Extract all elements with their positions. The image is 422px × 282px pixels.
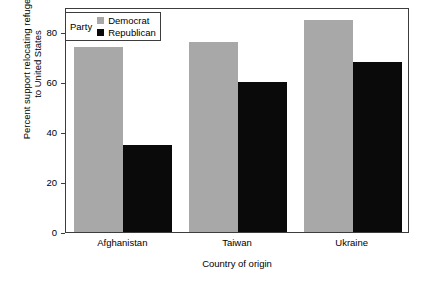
x-axis-tick-label-taiwan: Taiwan xyxy=(222,237,252,249)
bar-ukraine-republican xyxy=(353,62,402,232)
legend-swatch-republican-icon xyxy=(97,29,104,36)
legend-title: Party xyxy=(70,21,92,33)
legend-items: DemocratRepublican xyxy=(97,15,156,38)
x-axis-tick-label-afghanistan: Afghanistan xyxy=(97,237,147,249)
legend: Party DemocratRepublican xyxy=(65,12,161,41)
bar-afghanistan-republican xyxy=(123,145,172,233)
legend-swatch-democrat-icon xyxy=(97,17,104,24)
legend-entry-democrat[interactable]: Democrat xyxy=(97,15,156,26)
bar-taiwan-republican xyxy=(238,82,287,232)
bar-taiwan-democrat xyxy=(189,42,238,232)
y-axis-tick-label: 0 xyxy=(52,227,57,239)
legend-label-democrat: Democrat xyxy=(108,15,149,26)
bar-ukraine-democrat xyxy=(304,20,353,233)
y-axis-tick-label: 40 xyxy=(46,127,57,139)
bar-chart-figure: Percent support relocating refugees to U… xyxy=(0,0,422,282)
x-axis-label: Country of origin xyxy=(65,258,409,270)
x-axis-tick-label-ukraine: Ukraine xyxy=(335,237,368,249)
legend-entry-republican[interactable]: Republican xyxy=(97,27,156,38)
y-axis-tick-label: 60 xyxy=(46,77,57,89)
bars-layer xyxy=(66,9,408,232)
y-axis-label: Percent support relocating refugees to U… xyxy=(18,0,46,164)
y-axis-tick-label: 80 xyxy=(46,27,57,39)
plot-area xyxy=(65,8,409,233)
y-axis-label-line-2: to United States xyxy=(32,0,44,139)
y-axis-label-line-1: Percent support relocating refugees xyxy=(21,0,33,139)
bar-afghanistan-democrat xyxy=(74,47,123,232)
y-axis-tick-label: 20 xyxy=(46,177,57,189)
legend-label-republican: Republican xyxy=(108,27,156,38)
